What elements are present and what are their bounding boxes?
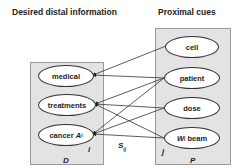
- proximal-plate-label: P: [190, 156, 195, 165]
- edge-patient-medical: [93, 75, 164, 78]
- node-patient: patient: [164, 67, 220, 89]
- node-cell: cell: [165, 36, 219, 58]
- edge-cell-medical: [93, 46, 166, 75]
- edge-dose-cancer: [93, 108, 164, 134]
- node-cancer: cancer Ai: [38, 124, 94, 146]
- node-beam: Wj beam: [164, 127, 220, 149]
- edge-beam-treatments: [95, 104, 164, 138]
- edge-label-s: Sij: [118, 141, 126, 152]
- edge-dose-treatments: [95, 104, 164, 108]
- edge-patient-treatments: [95, 78, 164, 104]
- node-medical: medical: [38, 65, 94, 87]
- node-dose: dose: [164, 97, 220, 119]
- distal-plate-label: D: [63, 156, 69, 165]
- edge-beam-cancer: [93, 134, 164, 138]
- var-w: W: [177, 134, 184, 143]
- proximal-index: j: [162, 147, 164, 156]
- distal-index: i: [88, 145, 90, 154]
- node-treatments: treatments: [38, 94, 96, 116]
